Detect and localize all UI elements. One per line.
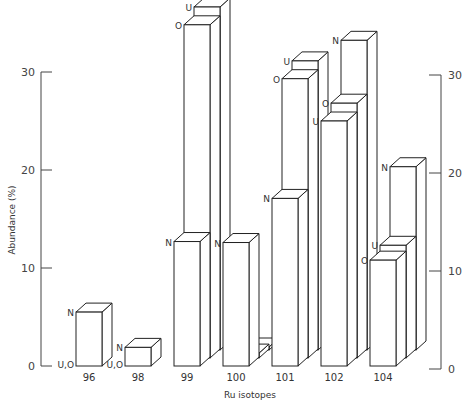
series-label: N bbox=[381, 163, 388, 173]
series-label: U,O bbox=[57, 360, 74, 370]
series-label: U bbox=[185, 3, 192, 13]
x-tick-label: 98 bbox=[132, 372, 145, 383]
x-tick-labels: 969899100101102104 bbox=[83, 372, 393, 383]
series-label: N bbox=[214, 239, 221, 249]
series-label: O bbox=[361, 256, 368, 266]
x-tick-label: 96 bbox=[83, 372, 96, 383]
bar-groups: NU,ONU,OUONUONUONNOUNUO bbox=[57, 0, 426, 370]
y-tick-label: 10 bbox=[21, 262, 35, 275]
bar-group-96: NU,O bbox=[57, 303, 112, 370]
series-label: N bbox=[116, 343, 123, 353]
bar-group-99: UON bbox=[165, 0, 230, 366]
y-tick-label: 20 bbox=[21, 164, 35, 177]
bar-N bbox=[223, 234, 259, 366]
series-label: U bbox=[371, 241, 378, 251]
bar-N bbox=[174, 233, 210, 366]
series-label: N bbox=[263, 194, 270, 204]
y-tick-label-right: 0 bbox=[448, 363, 455, 376]
series-label: O bbox=[273, 75, 280, 85]
bar-N bbox=[125, 338, 161, 366]
bar-group-100: UON bbox=[214, 234, 279, 366]
y-tick-label: 30 bbox=[21, 66, 35, 79]
series-label: N bbox=[332, 36, 339, 46]
y-tick-label-right: 10 bbox=[448, 265, 462, 278]
x-tick-label: 102 bbox=[324, 372, 343, 383]
series-label: O bbox=[322, 99, 329, 109]
bar-N bbox=[76, 303, 112, 366]
x-tick-label: 101 bbox=[275, 372, 294, 383]
x-tick-label: 99 bbox=[181, 372, 194, 383]
x-tick-label: 100 bbox=[226, 372, 245, 383]
series-label: O bbox=[175, 21, 182, 31]
y-tick-label-right: 30 bbox=[448, 69, 462, 82]
isotope-abundance-chart: 0102030 0102030 NU,ONU,OUONUONUONNOUNUO … bbox=[0, 0, 464, 403]
bar-group-101: UON bbox=[263, 52, 328, 366]
y-tick-label-right: 20 bbox=[448, 167, 462, 180]
series-label: U bbox=[283, 57, 290, 67]
left-y-axis: 0102030 bbox=[21, 66, 52, 373]
series-label: U bbox=[312, 117, 319, 127]
x-tick-label: 104 bbox=[373, 372, 392, 383]
y-axis-title: Abundance (%) bbox=[7, 185, 17, 254]
series-label: N bbox=[165, 238, 172, 248]
bar-U bbox=[321, 112, 357, 366]
x-axis-title: Ru isotopes bbox=[224, 390, 276, 400]
series-label: U,O bbox=[106, 360, 123, 370]
right-y-axis: 0102030 bbox=[429, 69, 462, 376]
series-label: N bbox=[67, 308, 74, 318]
bar-N bbox=[272, 189, 308, 366]
bar-group-98: NU,O bbox=[106, 338, 161, 370]
y-tick-label: 0 bbox=[28, 360, 35, 373]
bar-O bbox=[370, 251, 406, 366]
